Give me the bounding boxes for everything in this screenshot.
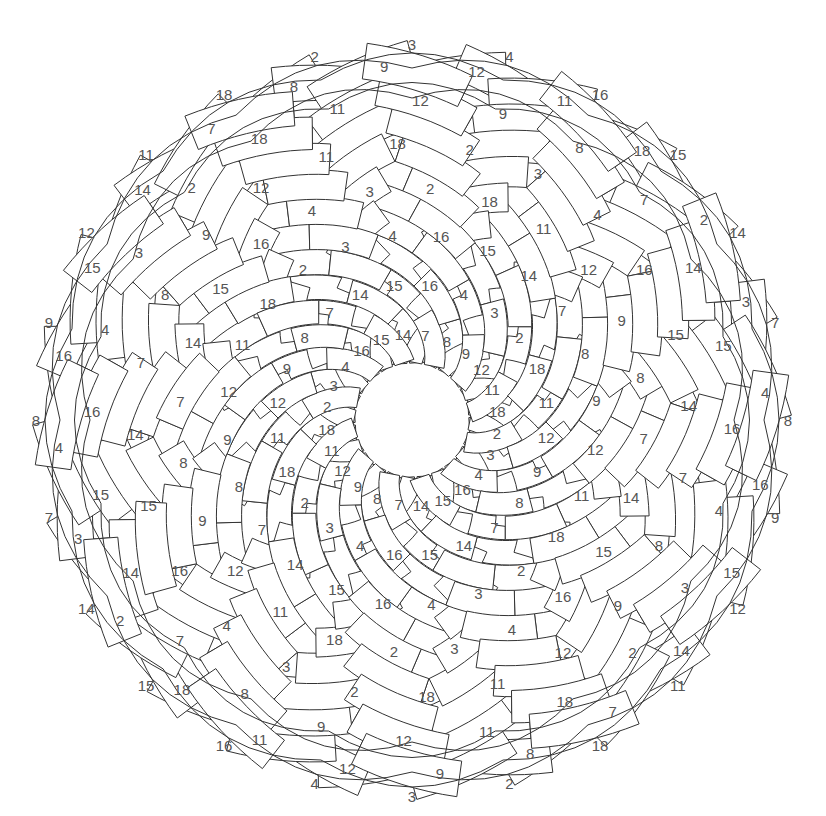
cell-number-label: 11 (670, 677, 686, 694)
cell-number-label: 14 (680, 397, 697, 414)
cell-number-label: 14 (455, 537, 472, 554)
cell-number-label: 15 (421, 546, 438, 563)
cell-number-label: 12 (227, 562, 244, 579)
cell-number-label: 12 (339, 760, 356, 777)
cell-number-label: 12 (729, 600, 746, 617)
cell-number-label: 2 (300, 494, 308, 511)
cell-number-label: 8 (300, 329, 308, 346)
cell-number-label: 9 (436, 765, 444, 782)
cell-number-label: 15 (373, 331, 390, 348)
cell-number-label: 3 (450, 640, 458, 657)
cell-number-label: 15 (84, 259, 101, 276)
cell-number-label: 4 (508, 621, 516, 638)
cell-number-label: 3 (341, 238, 349, 255)
cell-number-label: 3 (135, 244, 143, 261)
cell-number-label: 7 (207, 120, 215, 137)
cell-number-label: 4 (101, 321, 109, 338)
cell-number-label: 3 (366, 183, 374, 200)
cell-number-label: 18 (634, 142, 651, 159)
cell-number-label: 16 (592, 86, 609, 103)
cell-number-label: 18 (251, 130, 268, 147)
cell-number-label: 9 (771, 509, 779, 526)
cell-number-label: 18 (259, 295, 276, 312)
cell-number-label: 15 (595, 543, 612, 560)
cell-number-label: 2 (517, 562, 525, 579)
cell-number-label: 12 (220, 383, 237, 400)
cell-number-label: 3 (490, 304, 498, 321)
cell-number-label: 3 (325, 519, 333, 536)
cell-number-label: 3 (681, 579, 689, 596)
cell-number-label: 15 (140, 497, 157, 514)
cell-number-label: 8 (179, 454, 187, 471)
cell-number-label: 14 (673, 642, 690, 659)
cell-number-label: 9 (462, 345, 470, 362)
cell-number-label: 8 (655, 537, 663, 554)
cell-number-label: 3 (534, 165, 542, 182)
cell-number-label: 18 (174, 681, 191, 698)
cell-number-label: 18 (389, 135, 406, 152)
cell-number-label: 3 (486, 446, 494, 463)
cell-number-label: 11 (538, 394, 554, 411)
cell-number-label: 16 (752, 476, 769, 493)
cell-number-label: 11 (574, 487, 590, 504)
cell-number-label: 4 (311, 775, 319, 792)
cell-number-label: 11 (319, 148, 335, 165)
cell-number-label: 11 (235, 336, 251, 353)
cell-number-label: 18 (529, 360, 546, 377)
cell-number-label: 8 (784, 412, 792, 429)
cell-number-label: 2 (628, 644, 636, 661)
cell-number-label: 4 (55, 439, 63, 456)
cell-number-label: 14 (520, 267, 537, 284)
cell-number-label: 8 (636, 369, 644, 386)
cell-number-label: 11 (484, 381, 500, 398)
cell-number-label: 2 (493, 425, 501, 442)
cell-number-label: 18 (318, 421, 335, 438)
cell-number-label: 15 (328, 581, 345, 598)
cell-number-label: 2 (311, 48, 319, 65)
cell-number-label: 4 (475, 466, 483, 483)
cell-number-label: 7 (679, 469, 687, 486)
cell-number-label: 8 (575, 139, 583, 156)
cell-number-label: 11 (273, 603, 289, 620)
cell-number-label: 15 (667, 326, 684, 343)
cell-number-label: 2 (700, 211, 708, 228)
cell-number-label: 15 (92, 486, 109, 503)
cell-number-label: 9 (283, 360, 291, 377)
cell-number-label: 9 (202, 226, 210, 243)
cell-number-label: 14 (127, 426, 144, 443)
cell-number-label: 7 (608, 703, 616, 720)
cell-number-label: 4 (222, 617, 230, 634)
cell-number-label: 3 (74, 530, 82, 547)
cell-number-label: 18 (481, 193, 498, 210)
cell-number-label: 14 (122, 564, 139, 581)
cell-number-label: 8 (581, 345, 589, 362)
cell-number-label: 9 (614, 597, 622, 614)
cell-number-label: 18 (556, 693, 573, 710)
cell-number-label: 18 (592, 737, 609, 754)
cell-number-label: 7 (771, 314, 779, 331)
rosette-svg: 7777888899991212121211111111181818182222… (0, 0, 826, 816)
cell-number-label: 4 (388, 227, 396, 244)
cell-number-label: 18 (548, 528, 565, 545)
cell-number-label: 16 (636, 261, 653, 278)
cell-number-label: 2 (116, 612, 124, 629)
cell-number-label: 4 (356, 537, 364, 554)
cell-number-label: 3 (408, 788, 416, 805)
cell-number-label: 11 (138, 146, 154, 163)
cell-number-label: 9 (45, 314, 53, 331)
cell-number-label: 15 (434, 492, 451, 509)
strand-b-segment (460, 611, 538, 644)
cell-number-label: 3 (329, 377, 337, 394)
cell-number-label: 12 (78, 224, 95, 241)
cell-number-label: 2 (515, 329, 523, 346)
cell-number-label: 11 (536, 220, 552, 237)
cell-number-label: 16 (353, 342, 370, 359)
cell-number-label: 9 (592, 392, 600, 409)
cell-number-label: 18 (216, 86, 233, 103)
cell-number-label: 16 (433, 228, 450, 245)
cell-number-label: 9 (317, 718, 325, 735)
cell-number-label: 7 (421, 327, 429, 344)
cell-number-label: 11 (330, 100, 346, 117)
cell-number-label: 12 (473, 361, 490, 378)
cell-number-label: 16 (555, 588, 572, 605)
